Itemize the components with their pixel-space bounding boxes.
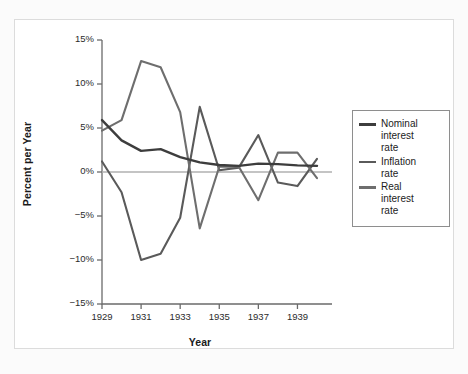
y-tick-label: 10% [54,77,94,88]
series-line [102,107,317,260]
legend-label: Nominal interest rate [381,118,418,155]
legend-item: Real interest rate [359,181,444,218]
legend-line-icon [359,123,376,126]
legend-line-icon [359,186,376,189]
x-tick-label: 1931 [121,311,161,322]
chart-legend: Nominal interest rateInflation rateReal … [352,110,450,227]
legend-item: Nominal interest rate [359,118,444,155]
y-tick-label: −5% [54,209,94,220]
x-axis-title: Year [145,336,255,348]
y-tick-label: −15% [54,297,94,308]
y-tick-label: −10% [54,253,94,264]
x-tick-label: 1929 [82,311,122,322]
legend-item: Inflation rate [359,156,444,180]
y-tick-label: 5% [54,121,94,132]
x-tick-label: 1939 [277,311,317,322]
y-tick-label: 15% [54,33,94,44]
legend-label: Inflation rate [381,156,416,180]
legend-line-icon [359,161,376,164]
y-tick-label: 0% [54,165,94,176]
series-line [102,120,317,166]
screenshot-canvas: Percent per Year Year 15%10%5%0%−5%−10%−… [0,0,468,374]
x-tick-label: 1935 [199,311,239,322]
y-axis-title: Percent per Year [21,104,33,224]
x-tick-label: 1937 [238,311,278,322]
x-tick-label: 1933 [160,311,200,322]
plot-axes [97,40,332,309]
legend-label: Real interest rate [381,181,414,218]
series-line [102,61,317,228]
data-series [102,61,317,260]
